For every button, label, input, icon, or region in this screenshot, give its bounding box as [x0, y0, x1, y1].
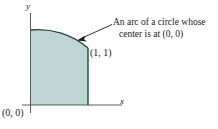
- figure-container: y x (0, 0) (1, 1) An arc of a circle who…: [0, 0, 218, 129]
- axis-label-x: x: [120, 97, 124, 106]
- axis-label-y: y: [26, 2, 30, 11]
- origin-point-label: (0, 0): [2, 108, 24, 119]
- arc-annotation-text: An arc of a circle whosecenter is at (0,…: [113, 16, 206, 40]
- annotation-leader-line: [82, 25, 112, 39]
- corner-point-label: (1, 1): [90, 48, 112, 59]
- arc-annotation-line-2: center is at (0, 0): [113, 28, 206, 40]
- arc-annotation-line-1: An arc of a circle whose: [113, 17, 206, 27]
